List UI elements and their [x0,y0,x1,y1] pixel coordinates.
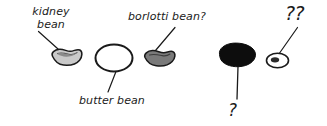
specimen-black-bean [219,43,255,67]
label-unknown-black-bean: ? [228,100,237,120]
specimen-borlotti-bean [145,51,175,66]
bean-diagram-canvas: kidney bean butter bean borlotti bean? ?… [0,0,327,126]
specimen-kidney-bean [52,49,82,65]
label-kidney-bean-line2: bean [37,18,65,31]
label-kidney-bean-line1: kidney [32,5,69,18]
label-kidney-bean: kidney bean [20,5,82,31]
leader-line-black-bean [237,67,238,100]
label-borlotti-bean: borlotti bean? [128,10,206,23]
leader-line-small-bean [278,28,298,57]
leader-line-borlotti-bean [156,28,176,51]
label-butter-bean: butter bean [79,94,145,107]
black-bean-body [219,43,255,67]
label-unknown-small-bean: ?? [285,2,304,24]
borlotti-bean-body [145,51,175,66]
specimen-small-speckled-bean [267,53,289,67]
butter-bean-body [96,45,133,72]
specimen-butter-bean [96,45,133,72]
kidney-bean-body [52,49,82,65]
small-bean-speck [271,57,279,62]
leader-line-butter-bean [108,72,116,93]
